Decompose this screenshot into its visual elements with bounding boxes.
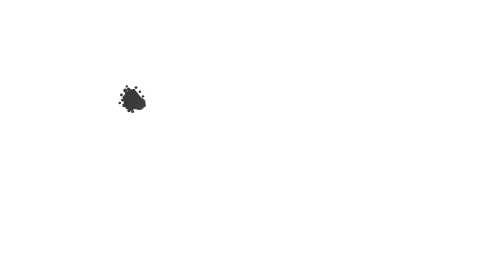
world-map-visualization	[0, 0, 480, 268]
marker-pin	[120, 94, 123, 97]
marker-pin	[138, 97, 141, 100]
marker-pin	[119, 102, 122, 105]
world-map-canvas	[0, 0, 480, 268]
marker-pin	[140, 100, 143, 103]
marker-pin	[132, 93, 136, 97]
marker-pin	[139, 91, 142, 94]
marker-pin	[142, 102, 145, 105]
marker-pin	[131, 110, 134, 113]
marker-pin	[139, 103, 142, 106]
marker-pin	[137, 107, 140, 110]
marker-pin	[121, 98, 124, 101]
ocean-background	[0, 0, 480, 268]
marker-pin	[126, 85, 128, 87]
marker-pin	[127, 109, 130, 112]
marker-pin	[132, 89, 135, 92]
marker-pin	[135, 86, 138, 89]
marker-pin	[142, 95, 144, 97]
